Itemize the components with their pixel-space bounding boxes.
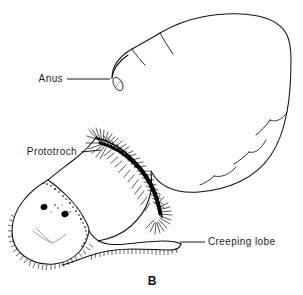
body-lobe-notch-4 [234, 152, 249, 164]
label-prototroch: Prototroch [27, 146, 77, 157]
creeping-lobe-outline [89, 231, 181, 245]
body-scallop-right-2 [249, 140, 266, 152]
neck-upper-line [48, 136, 97, 180]
label-prototroch-group: Prototroch [27, 146, 101, 157]
figure-container: Anus Prototroch Creeping lobe B [0, 0, 303, 295]
anal-pore-group [111, 76, 125, 93]
body-lobe-notch-3 [256, 120, 270, 135]
larva-diagram: Anus Prototroch Creeping lobe B [0, 0, 303, 295]
label-creeping-lobe: Creeping lobe [208, 236, 276, 247]
eyespot-left [40, 203, 48, 211]
head-internal-furrow-1 [33, 231, 50, 242]
label-anus-group: Anus [39, 73, 110, 84]
eyespot-right [61, 210, 70, 218]
label-anus: Anus [39, 73, 63, 84]
body-lobe-notch-5 [200, 176, 214, 185]
body-lobe-notch-2 [160, 33, 173, 54]
body-scallop-right-3 [214, 167, 236, 177]
neck-lower-line [98, 171, 152, 241]
body-scallop-right-1 [270, 112, 287, 121]
anal-pore-inner-line [116, 80, 122, 89]
head-pigment-flecks [50, 204, 70, 213]
figure-caption-letter: B [148, 274, 157, 288]
head-internal-furrow-3 [52, 234, 66, 243]
head-outline [12, 180, 89, 264]
body-lobe-notch-1 [132, 49, 145, 65]
creeping-lobe-group [62, 231, 181, 265]
head-group [12, 180, 89, 264]
label-creeping-lobe-group: Creeping lobe [180, 236, 276, 247]
ciliary-band [100, 143, 160, 214]
ciliary-band-core [97, 138, 162, 217]
